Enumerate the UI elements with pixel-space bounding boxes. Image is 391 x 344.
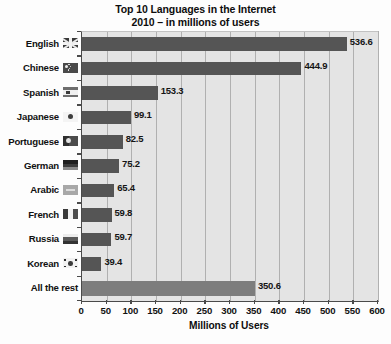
flag-icon-jp <box>63 112 78 122</box>
y-axis-label-spanish: Spanish <box>23 80 78 104</box>
plot-area: 536.6444.9153.399.182.575.265.459.859.73… <box>81 31 379 302</box>
flag-icon-fr <box>63 209 78 219</box>
bar-row: 59.8 <box>82 203 378 227</box>
bar-row: 350.6 <box>82 277 378 301</box>
y-axis-label-japanese: Japanese <box>17 104 78 128</box>
flag-icon-de <box>63 160 78 170</box>
x-axis-tick-label: 500 <box>320 305 335 316</box>
x-axis-title: Millions of Users <box>81 320 377 331</box>
y-axis-label-arabic: Arabic <box>30 178 78 202</box>
bar-value-label: 153.3 <box>161 85 184 96</box>
flag-icon-es <box>63 87 78 97</box>
x-axis-tick-label: 350 <box>246 305 261 316</box>
bar-value-label: 75.2 <box>122 158 140 169</box>
x-axis-tick <box>106 300 107 304</box>
y-axis-labels: EnglishChineseSpanishJapanesePortugueseG… <box>0 31 81 300</box>
y-axis-label-text: Japanese <box>17 111 59 122</box>
flag-icon-kr <box>63 258 78 268</box>
x-axis-tick-label: 550 <box>345 305 360 316</box>
bar-all-the-rest[interactable] <box>82 281 255 296</box>
bar-value-label: 82.5 <box>126 133 144 144</box>
bar-row: 153.3 <box>82 81 378 105</box>
y-axis-label-french: French <box>28 202 78 226</box>
x-axis-tick-label: 250 <box>197 305 212 316</box>
x-axis-tick <box>352 300 353 304</box>
y-axis-label-text: Spanish <box>23 87 59 98</box>
bar-row: 39.4 <box>82 252 378 276</box>
y-axis-label-korean: Korean <box>27 251 78 275</box>
bar-value-label: 65.4 <box>117 182 135 193</box>
x-axis-tick <box>377 300 378 304</box>
chart-title: Top 10 Languages in the Internet 2010 – … <box>0 3 391 28</box>
x-axis-tick <box>155 300 156 304</box>
bar-row: 444.9 <box>82 56 378 80</box>
x-axis-tick-label: 400 <box>271 305 286 316</box>
y-axis-label-text: French <box>28 209 59 220</box>
bar-value-label: 59.7 <box>114 231 132 242</box>
bar-row: 99.1 <box>82 105 378 129</box>
x-axis: Millions of Users 0501001502002503003504… <box>0 300 391 344</box>
x-axis-tick <box>278 300 279 304</box>
x-axis-tick <box>81 300 82 304</box>
bar-chart: Top 10 Languages in the Internet 2010 – … <box>0 0 391 344</box>
x-axis-tick-label: 50 <box>101 305 111 316</box>
bar-japanese[interactable] <box>82 111 131 125</box>
bar-value-label: 350.6 <box>258 280 281 291</box>
flag-icon-pt <box>63 136 78 146</box>
bar-row: 536.6 <box>82 32 378 56</box>
x-axis-tick-label: 150 <box>147 305 162 316</box>
bar-value-label: 444.9 <box>304 60 327 71</box>
bar-value-label: 99.1 <box>134 109 152 120</box>
bar-french[interactable] <box>82 208 112 222</box>
y-axis-label-portuguese: Portuguese <box>8 129 78 153</box>
bar-row: 59.7 <box>82 228 378 252</box>
y-axis-label-text: Russia <box>29 233 59 244</box>
bar-value-label: 536.6 <box>350 36 373 47</box>
bar-english[interactable] <box>82 37 347 51</box>
bar-spanish[interactable] <box>82 86 158 100</box>
x-axis-tick-label: 0 <box>78 305 83 316</box>
bar-row: 82.5 <box>82 130 378 154</box>
bar-row: 75.2 <box>82 154 378 178</box>
y-axis-label-text: All the rest <box>31 282 78 293</box>
bar-value-label: 39.4 <box>104 256 122 267</box>
x-axis-tick <box>328 300 329 304</box>
y-axis-label-text: Chinese <box>23 62 59 73</box>
y-axis-label-all-the-rest: All the rest <box>31 276 78 300</box>
x-axis-tick-label: 100 <box>123 305 138 316</box>
x-axis-tick-label: 300 <box>221 305 236 316</box>
y-axis-label-german: German <box>24 153 78 177</box>
x-axis-tick <box>303 300 304 304</box>
flag-icon-ar <box>63 185 78 195</box>
x-axis-tick-label: 200 <box>172 305 187 316</box>
flag-icon-ru <box>63 234 78 244</box>
y-axis-label-chinese: Chinese <box>23 55 78 79</box>
y-axis-label-text: Korean <box>27 258 59 269</box>
gridline <box>378 32 379 301</box>
x-axis-tick-label: 600 <box>369 305 384 316</box>
bar-russia[interactable] <box>82 233 111 247</box>
y-axis-label-text: Portuguese <box>8 136 59 147</box>
bar-korean[interactable] <box>82 257 101 271</box>
bar-german[interactable] <box>82 159 119 173</box>
y-axis-label-text: Arabic <box>30 184 59 195</box>
flag-icon-uk <box>63 38 78 48</box>
bar-portuguese[interactable] <box>82 135 123 149</box>
y-axis-label-russia: Russia <box>29 227 78 251</box>
x-axis-tick-label: 450 <box>295 305 310 316</box>
bar-arabic[interactable] <box>82 184 114 198</box>
x-axis-tick <box>254 300 255 304</box>
bar-value-label: 59.8 <box>115 207 133 218</box>
x-axis-tick <box>229 300 230 304</box>
y-axis-label-english: English <box>26 31 78 55</box>
y-axis-label-text: German <box>24 160 59 171</box>
x-axis-tick <box>180 300 181 304</box>
bar-chinese[interactable] <box>82 62 301 76</box>
x-axis-tick <box>130 300 131 304</box>
x-axis-tick <box>204 300 205 304</box>
chart-title-line-2: 2010 – in millions of users <box>0 16 391 29</box>
chart-title-line-1: Top 10 Languages in the Internet <box>0 3 391 16</box>
y-axis-label-text: English <box>26 38 59 49</box>
bar-row: 65.4 <box>82 179 378 203</box>
flag-icon-cn <box>63 63 78 73</box>
